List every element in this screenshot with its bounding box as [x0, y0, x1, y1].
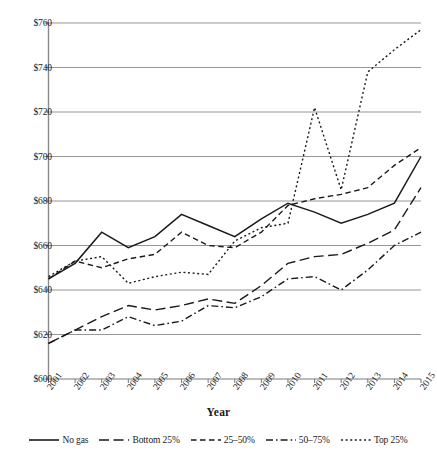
- chart-canvas: [0, 0, 437, 392]
- legend-swatch-dash-icon: [191, 436, 221, 444]
- series-line-no-gas: [49, 157, 422, 279]
- legend-swatch-dash-dot-icon: [266, 436, 296, 444]
- y-tick-label-660: $660: [6, 241, 52, 251]
- series-group: [49, 30, 422, 344]
- y-tick-label-640: $640: [6, 285, 52, 295]
- y-tick-label-740: $740: [6, 63, 52, 73]
- legend-label: Top 25%: [374, 435, 408, 445]
- legend-swatch-dotted-icon: [341, 436, 371, 444]
- series-line-50-75: [49, 232, 422, 343]
- y-tick-label-620: $620: [6, 330, 52, 340]
- x-axis-title: Year: [0, 406, 437, 418]
- legend-label: No gas: [62, 435, 88, 445]
- plot-area: $760$740$720$700$680$660$640$620$600 200…: [0, 0, 437, 392]
- legend-swatch-long-dash-icon: [99, 436, 129, 444]
- legend-swatch-solid-icon: [29, 436, 59, 444]
- legend-item-no-gas[interactable]: No gas: [29, 435, 88, 445]
- grid-lines: [49, 23, 422, 335]
- y-tick-label-680: $680: [6, 196, 52, 206]
- y-tick-label-600: $600: [6, 374, 52, 384]
- legend-item-top-25[interactable]: Top 25%: [341, 435, 408, 445]
- legend-label: 50–75%: [299, 435, 330, 445]
- y-tick-label-720: $720: [6, 107, 52, 117]
- line-chart-figure: $760$740$720$700$680$660$640$620$600 200…: [0, 0, 437, 456]
- y-tick-label-700: $700: [6, 152, 52, 162]
- chart-legend: No gasBottom 25%25–50%50–75%Top 25%: [0, 430, 437, 450]
- legend-label: 25–50%: [224, 435, 255, 445]
- series-line-bottom-25: [49, 188, 422, 344]
- y-tick-label-760: $760: [6, 18, 52, 28]
- legend-label: Bottom 25%: [132, 435, 179, 445]
- legend-item-bottom-25[interactable]: Bottom 25%: [99, 435, 179, 445]
- legend-item-25-50[interactable]: 25–50%: [191, 435, 255, 445]
- legend-item-50-75[interactable]: 50–75%: [266, 435, 330, 445]
